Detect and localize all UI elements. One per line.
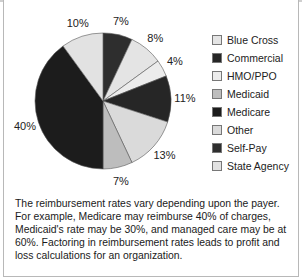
- legend-label-hmo-ppo: HMO/PPO: [227, 70, 277, 82]
- legend-item-blue-cross: Blue Cross: [212, 31, 289, 49]
- legend-swatch-state-agency: [212, 161, 222, 171]
- pie-label-medicare: 40%: [14, 120, 36, 132]
- legend: Blue CrossCommercialHMO/PPOMedicaidMedic…: [212, 31, 289, 175]
- legend-swatch-medicare: [212, 107, 222, 117]
- legend-swatch-self-pay: [212, 143, 222, 153]
- legend-swatch-blue-cross: [212, 35, 222, 45]
- pie-label-hmo-ppo: 4%: [167, 55, 183, 67]
- legend-swatch-commercial: [212, 53, 222, 63]
- legend-label-other: Other: [227, 124, 253, 136]
- legend-label-medicaid: Medicaid: [227, 88, 269, 100]
- pie-chart: 7%8%4%11%13%7%40%10%: [0, 0, 210, 190]
- pie-label-medicaid: 7%: [113, 175, 129, 187]
- figure-caption: The reimbursement rates vary depending u…: [15, 197, 295, 262]
- legend-swatch-medicaid: [212, 89, 222, 99]
- legend-swatch-other: [212, 125, 222, 135]
- pie-label-self-pay: 7%: [113, 15, 129, 27]
- legend-label-state-agency: State Agency: [227, 160, 289, 172]
- pie-label-state-agency: 10%: [67, 17, 89, 29]
- legend-swatch-hmo-ppo: [212, 71, 222, 81]
- legend-item-other: Other: [212, 121, 289, 139]
- legend-item-hmo-ppo: HMO/PPO: [212, 67, 289, 85]
- legend-item-commercial: Commercial: [212, 49, 289, 67]
- legend-item-state-agency: State Agency: [212, 157, 289, 175]
- legend-item-self-pay: Self-Pay: [212, 139, 289, 157]
- legend-label-blue-cross: Blue Cross: [227, 34, 278, 46]
- pie-label-blue-cross: 8%: [147, 32, 163, 44]
- legend-label-self-pay: Self-Pay: [227, 142, 267, 154]
- legend-item-medicaid: Medicaid: [212, 85, 289, 103]
- legend-item-medicare: Medicare: [212, 103, 289, 121]
- legend-label-medicare: Medicare: [227, 106, 270, 118]
- pie-slices: [35, 33, 171, 169]
- pie-label-other: 13%: [153, 149, 175, 161]
- pie-label-commercial: 11%: [174, 92, 195, 104]
- legend-label-commercial: Commercial: [227, 52, 283, 64]
